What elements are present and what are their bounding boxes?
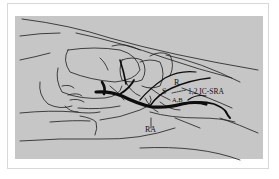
bone-carpal-1 xyxy=(65,48,140,82)
label-r: R xyxy=(174,79,179,87)
label-ra: RA xyxy=(145,126,156,134)
label-s: S xyxy=(162,88,166,96)
label-ic-sra: 1,2 IC-SRA xyxy=(188,88,224,96)
label-ab: A,B xyxy=(172,97,183,104)
wrist-drawing xyxy=(0,0,279,179)
